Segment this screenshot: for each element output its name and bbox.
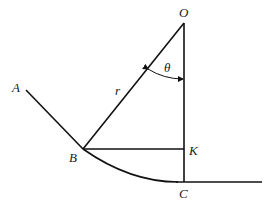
line-AB [26, 90, 83, 149]
label-r: r [115, 83, 121, 98]
label-K: K [188, 143, 199, 158]
arc-BC [83, 149, 178, 182]
diagram-canvas: O A B K C r θ [0, 0, 271, 204]
label-B: B [69, 150, 77, 165]
radius-OB [83, 23, 184, 149]
label-A: A [11, 80, 20, 95]
label-C: C [179, 186, 188, 201]
label-theta: θ [164, 60, 171, 75]
label-O: O [179, 5, 189, 20]
